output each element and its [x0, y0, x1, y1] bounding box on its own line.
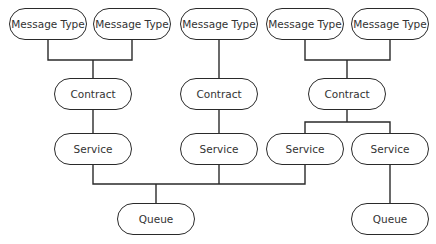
contract-node-2[interactable]: Contract	[180, 78, 258, 110]
queue-node-2[interactable]: Queue	[351, 203, 429, 235]
node-label: Service	[286, 143, 325, 155]
node-label: Contract	[196, 88, 241, 100]
service-node-1[interactable]: Service	[54, 133, 132, 165]
service-node-2[interactable]: Service	[180, 133, 258, 165]
message-type-node-2[interactable]: Message Type	[93, 8, 171, 40]
node-label: Message Type	[11, 18, 84, 30]
message-type-node-1[interactable]: Message Type	[9, 8, 87, 40]
node-label: Message Type	[182, 18, 255, 30]
contract-node-1[interactable]: Contract	[54, 78, 132, 110]
node-label: Contract	[70, 88, 115, 100]
message-type-node-3[interactable]: Message Type	[180, 8, 258, 40]
node-label: Message Type	[268, 18, 341, 30]
message-type-node-5[interactable]: Message Type	[351, 8, 429, 40]
node-label: Queue	[139, 213, 174, 225]
node-label: Queue	[373, 213, 408, 225]
service-node-3[interactable]: Service	[266, 133, 344, 165]
node-label: Message Type	[95, 18, 168, 30]
node-label: Service	[371, 143, 410, 155]
service-node-4[interactable]: Service	[351, 133, 429, 165]
node-label: Message Type	[353, 18, 426, 30]
contract-node-3[interactable]: Contract	[308, 78, 386, 110]
node-label: Service	[200, 143, 239, 155]
node-label: Service	[74, 143, 113, 155]
node-label: Contract	[324, 88, 369, 100]
queue-node-1[interactable]: Queue	[117, 203, 195, 235]
message-type-node-4[interactable]: Message Type	[266, 8, 344, 40]
